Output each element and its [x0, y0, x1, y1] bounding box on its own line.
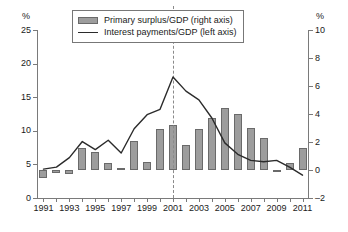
- left-tick-label: 10: [21, 126, 31, 135]
- x-tick: [82, 198, 83, 202]
- right-tick: [309, 170, 313, 171]
- left-tick: [33, 198, 37, 199]
- x-tick: [173, 198, 174, 202]
- x-tick: [277, 198, 278, 202]
- x-tick-label: 1997: [111, 204, 131, 213]
- left-tick-label: 15: [21, 93, 31, 102]
- x-tick-label: 2007: [241, 204, 261, 213]
- x-tick-label: 1991: [33, 204, 53, 213]
- left-axis-unit-label: %: [22, 12, 30, 21]
- right-tick: [309, 30, 313, 31]
- x-tick: [212, 198, 213, 202]
- right-tick-label: 10: [315, 26, 325, 35]
- x-tick-label: 2005: [215, 204, 235, 213]
- x-tick-label: 2001: [163, 204, 183, 213]
- chart-figure: % % 0510152025 –20246810 199119931995199…: [0, 0, 348, 232]
- plot-area: 0510152025 –20246810 1991199319951997199…: [37, 30, 309, 198]
- chart-legend: Primary surplus/GDP (right axis) Interes…: [72, 10, 244, 43]
- x-tick-label: 2009: [267, 204, 287, 213]
- x-tick: [290, 198, 291, 202]
- x-tick: [56, 198, 57, 202]
- x-tick: [160, 198, 161, 202]
- x-tick: [199, 198, 200, 202]
- right-axis-unit-label: %: [316, 12, 324, 21]
- left-tick-label: 20: [21, 59, 31, 68]
- x-tick: [43, 198, 44, 202]
- line-series-interest-payments: [37, 30, 309, 198]
- x-tick-label: 2011: [293, 204, 312, 213]
- right-tick-label: 6: [315, 82, 320, 91]
- x-tick: [134, 198, 135, 202]
- x-tick: [238, 198, 239, 202]
- right-tick: [309, 198, 313, 199]
- left-tick-label: 25: [21, 26, 31, 35]
- legend-item-primary-surplus: Primary surplus/GDP (right axis): [78, 14, 236, 26]
- x-tick: [69, 198, 70, 202]
- x-tick-label: 2003: [189, 204, 209, 213]
- x-tick: [225, 198, 226, 202]
- left-tick-label: 0: [26, 194, 31, 203]
- x-tick: [147, 198, 148, 202]
- legend-label-primary-surplus: Primary surplus/GDP (right axis): [104, 15, 233, 25]
- x-tick: [95, 198, 96, 202]
- x-tick: [186, 198, 187, 202]
- x-tick-label: 1999: [137, 204, 157, 213]
- right-tick: [309, 142, 313, 143]
- x-tick: [303, 198, 304, 202]
- left-tick-label: 5: [26, 160, 31, 169]
- right-tick-label: –2: [315, 194, 325, 203]
- right-tick: [309, 86, 313, 87]
- x-tick-label: 1995: [85, 204, 105, 213]
- right-tick-label: 8: [315, 54, 320, 63]
- legend-label-interest-payments: Interest payments/GDP (left axis): [104, 27, 236, 37]
- right-tick: [309, 114, 313, 115]
- x-tick: [264, 198, 265, 202]
- right-tick-label: 0: [315, 166, 320, 175]
- right-tick: [309, 58, 313, 59]
- right-tick-label: 2: [315, 138, 320, 147]
- x-tick: [121, 198, 122, 202]
- x-tick-label: 1993: [59, 204, 79, 213]
- legend-swatch-icon: [78, 17, 98, 24]
- legend-item-interest-payments: Interest payments/GDP (left axis): [78, 26, 236, 38]
- x-tick: [251, 198, 252, 202]
- right-tick-label: 4: [315, 110, 320, 119]
- x-tick: [108, 198, 109, 202]
- legend-line-icon: [78, 29, 98, 36]
